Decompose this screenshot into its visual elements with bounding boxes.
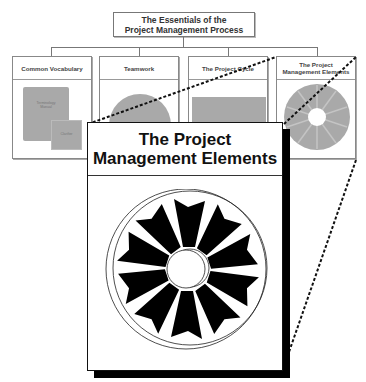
zoomed-title-line2: Management Elements — [88, 149, 282, 168]
zoomed-title-line1: The Project — [88, 130, 282, 149]
zoomed-panel-title: The Project Management Elements — [88, 123, 282, 176]
zoomed-panel-pm-elements: The Project Management Elements — [87, 122, 283, 371]
project-elements-wheel — [104, 189, 272, 353]
